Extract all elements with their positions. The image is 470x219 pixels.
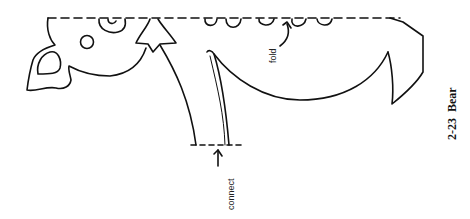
- fold-arrow: [280, 24, 288, 46]
- back-scallop-2: [226, 19, 241, 27]
- back-scallop-3: [259, 19, 274, 25]
- ear-inner: [38, 52, 61, 74]
- back-scallop-1: [205, 19, 217, 25]
- nose-scallop: [99, 19, 126, 32]
- back-leg: [207, 51, 229, 145]
- back-scallop-4: [292, 19, 306, 26]
- caption-title: Bear: [445, 87, 459, 112]
- fold-label: fold: [268, 48, 278, 63]
- figure-caption: 2-23Bear: [445, 87, 460, 140]
- rump-outline: [388, 18, 423, 104]
- caption-number: 2-23: [445, 118, 459, 140]
- back-scallop-5: [317, 19, 332, 25]
- eye: [81, 36, 94, 49]
- front-leg: [160, 45, 196, 145]
- collar-shape: [136, 19, 176, 52]
- belly-curve: [214, 52, 388, 100]
- connect-label: connect: [226, 178, 236, 210]
- bear-pattern-figure: fold connect 2-23Bear: [0, 0, 470, 219]
